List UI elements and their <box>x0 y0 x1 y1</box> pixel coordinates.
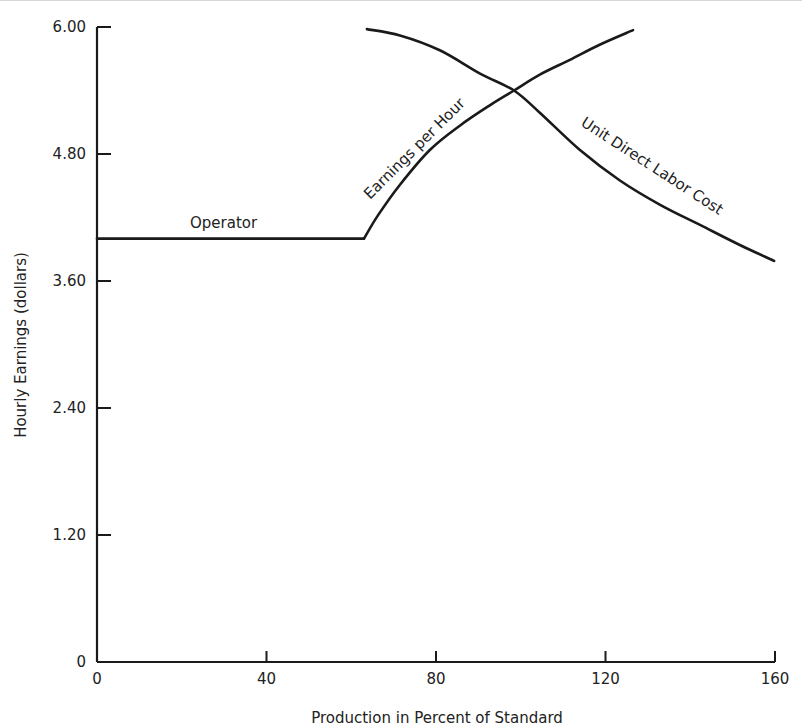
x-tick-label: 0 <box>92 670 102 688</box>
x-ticks: 04080120160 <box>92 651 789 688</box>
x-tick-label: 40 <box>257 670 276 688</box>
x-tick-label: 120 <box>591 670 620 688</box>
label-earnings-per-hour: Earnings per Hour <box>360 94 469 203</box>
label-operator: Operator <box>190 214 258 232</box>
chart: 01.202.403.604.806.00 04080120160 Hourly… <box>0 0 802 728</box>
y-ticks: 01.202.403.604.806.00 <box>53 18 111 671</box>
y-tick-label: 3.60 <box>53 272 86 290</box>
top-cropped-text-remnant <box>0 0 802 1</box>
y-tick-label: 6.00 <box>53 18 86 36</box>
y-tick-label: 4.80 <box>53 145 86 163</box>
y-axis-title: Hourly Earnings (dollars) <box>12 252 30 438</box>
x-tick-label: 80 <box>426 670 445 688</box>
y-tick-label: 0 <box>76 653 86 671</box>
y-tick-label: 2.40 <box>53 399 86 417</box>
x-axis-title: Production in Percent of Standard <box>311 709 563 727</box>
y-tick-label: 1.20 <box>53 526 86 544</box>
x-tick-label: 160 <box>761 670 790 688</box>
